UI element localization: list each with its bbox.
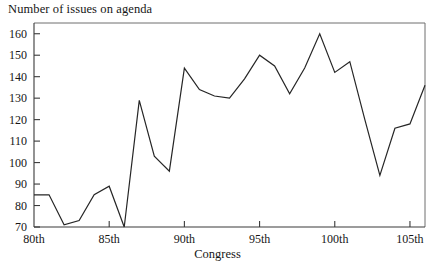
y-tick-label: 160 [9,27,27,41]
line-chart-plot: 708090100110120130140150160 80th85th90th… [0,0,435,269]
y-tick-label: 140 [9,70,27,84]
y-tick-group: 708090100110120130140150160 [9,27,40,234]
x-tick-label: 95th [249,232,270,246]
x-tick-group: 80th85th90th95th100th105th [23,221,423,246]
y-tick-label: 110 [9,134,27,148]
x-tick-label: 100th [321,232,348,246]
y-tick-label: 130 [9,91,27,105]
series-line-issues-on-agenda [34,34,425,227]
y-tick-label: 100 [9,156,27,170]
y-tick-label: 80 [15,199,27,213]
x-tick-label: 80th [23,232,44,246]
y-tick-label: 90 [15,177,27,191]
x-tick-label: 85th [99,232,120,246]
chart-figure: Number of issues on agenda 7080901001101… [0,0,435,269]
y-tick-label: 120 [9,113,27,127]
x-tick-label: 105th [396,232,423,246]
y-tick-label: 150 [9,48,27,62]
x-axis-title: Congress [0,247,435,262]
y-axis-title: Number of issues on agenda [8,2,152,17]
x-tick-label: 90th [174,232,195,246]
